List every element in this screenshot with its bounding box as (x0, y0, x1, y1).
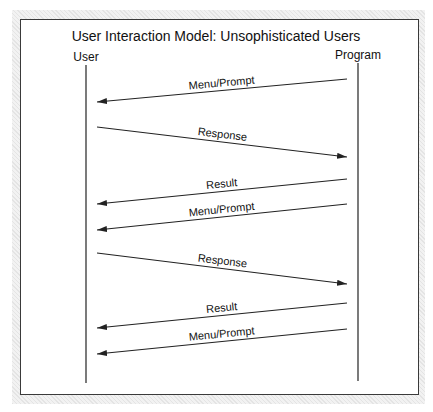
message-label: Result (205, 300, 237, 315)
messages: Menu/PromptResponseResultMenu/PromptResp… (97, 74, 347, 354)
message-label: Menu/Prompt (188, 200, 255, 219)
sequence-diagram: User Interaction Model: Unsophisticated … (0, 0, 433, 412)
message-label: Menu/Prompt (188, 324, 255, 343)
actor-user-label: User (73, 50, 98, 64)
message-label: Result (205, 176, 237, 191)
diagram-title: User Interaction Model: Unsophisticated … (72, 28, 361, 44)
actor-program-label: Program (335, 48, 381, 62)
